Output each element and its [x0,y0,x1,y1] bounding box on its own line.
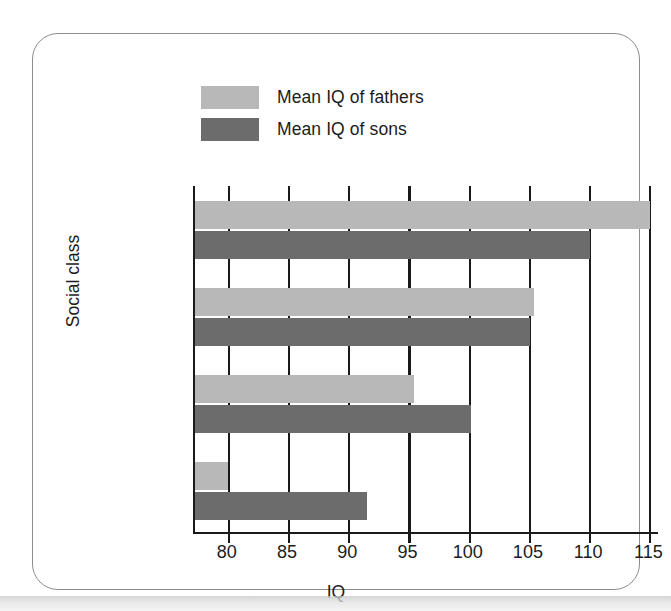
legend-item-sons: Mean IQ of sons [201,118,424,141]
legend-item-fathers: Mean IQ of fathers [201,86,424,109]
x-tick-label-100: 100 [453,542,483,563]
bar-class4-fathers [195,462,228,490]
legend-swatch-fathers [201,86,259,109]
x-tick-label-85: 85 [277,542,297,563]
plot-inner [195,186,658,532]
x-tick-label-80: 80 [217,542,237,563]
x-tick-label-115: 115 [634,542,663,563]
y-axis-title: Social class [63,235,84,327]
bar-class3-fathers [195,375,414,403]
legend-label-fathers: Mean IQ of fathers [277,87,424,108]
bar-class1-sons [195,231,590,259]
bar-class2-fathers [195,288,534,316]
bar-class3-sons [195,405,471,433]
gridline-115 [649,186,651,532]
plot-area [193,186,658,534]
page-bottom-strip [0,596,671,611]
chart-legend: Mean IQ of fathers Mean IQ of sons [201,86,424,141]
x-tick-label-110: 110 [574,542,603,563]
legend-label-sons: Mean IQ of sons [277,119,407,140]
x-tick-label-105: 105 [513,542,543,563]
bar-class4-sons [195,492,367,520]
x-tick-label-90: 90 [337,542,357,563]
bar-class1-fathers [195,201,650,229]
x-tick-label-95: 95 [397,542,417,563]
legend-swatch-sons [201,118,259,141]
bar-class2-sons [195,318,530,346]
figure-card: Mean IQ of fathers Mean IQ of sons Socia… [32,33,640,590]
